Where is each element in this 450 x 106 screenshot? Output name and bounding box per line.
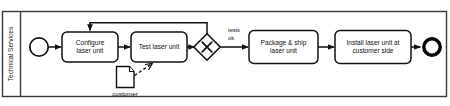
task-install-laser-unit-line-2: customer side (352, 47, 393, 54)
task-package-and-ship-laser-unit-line-2: laser unit (270, 47, 297, 54)
bpmn-diagram: Technical Services Configure laser unit … (0, 0, 450, 106)
start-event (30, 38, 48, 56)
end-event (424, 39, 440, 55)
bpmn-canvas: Technical Services Configure laser unit … (0, 0, 450, 106)
task-test-laser-unit-line-1: Test laser unit (139, 43, 180, 50)
task-install-laser-unit-line-1: Install laser unit at (346, 39, 399, 46)
flow-label-tests-ok-line-1: tests (228, 27, 240, 33)
task-package-and-ship-laser-unit-line-1: Package & ship (261, 39, 307, 47)
task-configure-laser-unit-line-1: Configure (76, 39, 105, 47)
lane-label-technical-services: Technical Services (7, 26, 14, 81)
data-object-customer-label: customer (112, 90, 137, 97)
task-configure-laser-unit-line-2: laser unit (77, 47, 104, 54)
flow-label-tests-ok-line-2: ok (228, 35, 234, 41)
